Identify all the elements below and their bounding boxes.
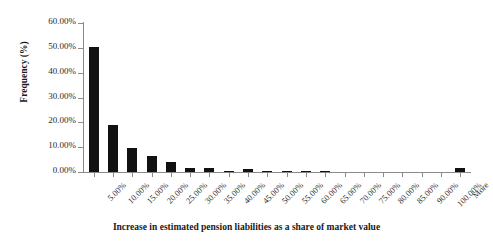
bar — [89, 47, 99, 172]
y-axis-tick-mark — [78, 48, 83, 49]
x-axis-title: Increase in estimated pension liabilitie… — [0, 222, 493, 232]
y-axis-tick-mark — [78, 73, 83, 74]
y-axis-tick-mark — [78, 147, 83, 148]
x-axis-tick-mark — [345, 173, 346, 177]
y-axis-tick-label: 20.00% — [48, 115, 76, 125]
y-axis-tick-label: 40.00% — [48, 66, 76, 76]
x-axis-tick-mark — [325, 173, 326, 177]
bar — [108, 125, 118, 172]
bar — [262, 171, 272, 172]
bar — [301, 171, 311, 172]
x-axis-tick-mark — [113, 173, 114, 177]
plot-area — [84, 23, 470, 172]
bar — [204, 168, 214, 172]
x-axis-tick-mark — [132, 173, 133, 177]
bar — [127, 148, 137, 172]
bar — [243, 169, 253, 172]
x-axis-tick-mark — [267, 173, 268, 177]
x-axis-tick-mark — [287, 173, 288, 177]
y-axis-tick-label: 60.00% — [48, 16, 76, 26]
bar — [185, 168, 195, 172]
y-axis-tick-mark — [78, 23, 83, 24]
x-axis-tick-mark — [460, 173, 461, 177]
y-axis-tick-label: 10.00% — [48, 140, 76, 150]
y-axis-tick-label: 50.00% — [48, 41, 76, 51]
x-axis-tick-mark — [306, 173, 307, 177]
bar — [147, 156, 157, 172]
x-axis-tick-mark — [229, 173, 230, 177]
x-axis-tick-label: 5.00% — [105, 180, 128, 203]
histogram-chart: Frequency (%) 0.00%10.00%20.00%30.00%40.… — [0, 0, 493, 242]
bar — [166, 162, 176, 172]
x-axis-tick-mark — [364, 173, 365, 177]
x-axis-tick-mark — [383, 173, 384, 177]
bar — [224, 171, 234, 172]
bar — [282, 171, 292, 172]
x-axis-tick-mark — [441, 173, 442, 177]
y-axis-tick-mark — [78, 122, 83, 123]
x-axis-tick-mark — [152, 173, 153, 177]
y-axis-title: Frequency (%) — [16, 0, 32, 147]
x-axis-tick-mark — [171, 173, 172, 177]
y-axis-tick-label: 0.00% — [53, 165, 76, 175]
x-axis-tick-mark — [190, 173, 191, 177]
y-axis-tick-label: 30.00% — [48, 91, 76, 101]
x-axis-tick-mark — [94, 173, 95, 177]
bar — [320, 171, 330, 172]
x-axis-tick-mark — [248, 173, 249, 177]
bar — [455, 168, 465, 172]
y-axis-tick-mark — [78, 98, 83, 99]
x-axis-tick-mark — [422, 173, 423, 177]
x-axis-tick-mark — [209, 173, 210, 177]
x-axis-line — [83, 172, 471, 173]
y-axis-tick-mark — [78, 172, 83, 173]
x-axis-tick-mark — [402, 173, 403, 177]
